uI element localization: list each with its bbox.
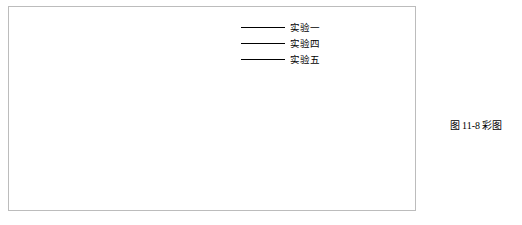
figure-container: 实验一 实验四 实验五 图 11-8 彩图 xyxy=(0,0,522,225)
legend-item-label: 实验五 xyxy=(290,52,320,66)
legend-color-swatch xyxy=(241,43,285,44)
legend-item-label: 实验四 xyxy=(290,36,320,50)
legend-item: 实验四 xyxy=(241,35,349,51)
legend-color-swatch xyxy=(241,27,285,28)
legend-item: 实验五 xyxy=(241,51,349,67)
loss-line-chart xyxy=(9,7,415,210)
legend-color-swatch xyxy=(241,59,285,60)
legend-item: 实验一 xyxy=(241,19,349,35)
qr-code-image xyxy=(447,52,503,108)
figure-caption: 图 11-8 彩图 xyxy=(440,117,512,132)
loss-chart-panel: 实验一 实验四 实验五 xyxy=(8,6,416,211)
chart-legend: 实验一 实验四 实验五 xyxy=(241,19,349,69)
legend-item-label: 实验一 xyxy=(290,20,320,34)
qr-code[interactable] xyxy=(447,52,503,108)
